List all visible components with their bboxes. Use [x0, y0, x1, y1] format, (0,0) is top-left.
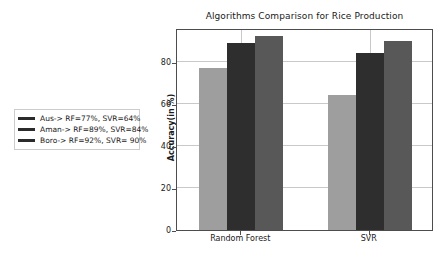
- y-axis-tick-label: 80: [161, 59, 171, 67]
- legend-item-label: Aus-> RF=77%, SVR=64%: [40, 114, 140, 123]
- chart-legend: Aus-> RF=77%, SVR=64%Aman-> RF=89%, SVR=…: [14, 109, 140, 150]
- bar-aman-svr: [356, 53, 384, 230]
- y-axis-tick-label: 0: [166, 227, 171, 235]
- legend-line-marker: [18, 128, 35, 131]
- x-axis-tick-label: Random Forest: [210, 234, 270, 243]
- legend-line-marker: [18, 117, 35, 120]
- bar-aman-random-forest: [227, 43, 255, 230]
- figure-canvas: Algorithms Comparison for Rice Productio…: [0, 0, 445, 258]
- bar-aus-svr: [328, 95, 356, 230]
- legend-item: Boro-> RF=92%, SVR= 90%: [18, 135, 135, 146]
- x-axis-tick-label: SVR: [361, 234, 377, 243]
- legend-line-marker: [18, 139, 35, 142]
- bar-aus-random-forest: [199, 68, 227, 230]
- y-axis-tick-mark: [172, 231, 176, 232]
- y-axis-tick-label: 40: [161, 143, 171, 151]
- y-axis-tick-label: 20: [161, 185, 171, 193]
- legend-item: Aus-> RF=77%, SVR=64%: [18, 113, 135, 124]
- bar-boro-svr: [384, 41, 412, 230]
- plot-area: [176, 29, 433, 231]
- y-axis-tick-label: 60: [161, 101, 171, 109]
- y-axis-tick-labels: 020406080: [150, 0, 171, 258]
- bar-boro-random-forest: [255, 36, 283, 230]
- legend-item-label: Boro-> RF=92%, SVR= 90%: [40, 136, 146, 145]
- legend-item: Aman-> RF=89%, SVR=84%: [18, 124, 135, 135]
- chart-title: Algorithms Comparison for Rice Productio…: [176, 11, 433, 21]
- legend-item-label: Aman-> RF=89%, SVR=84%: [40, 125, 148, 134]
